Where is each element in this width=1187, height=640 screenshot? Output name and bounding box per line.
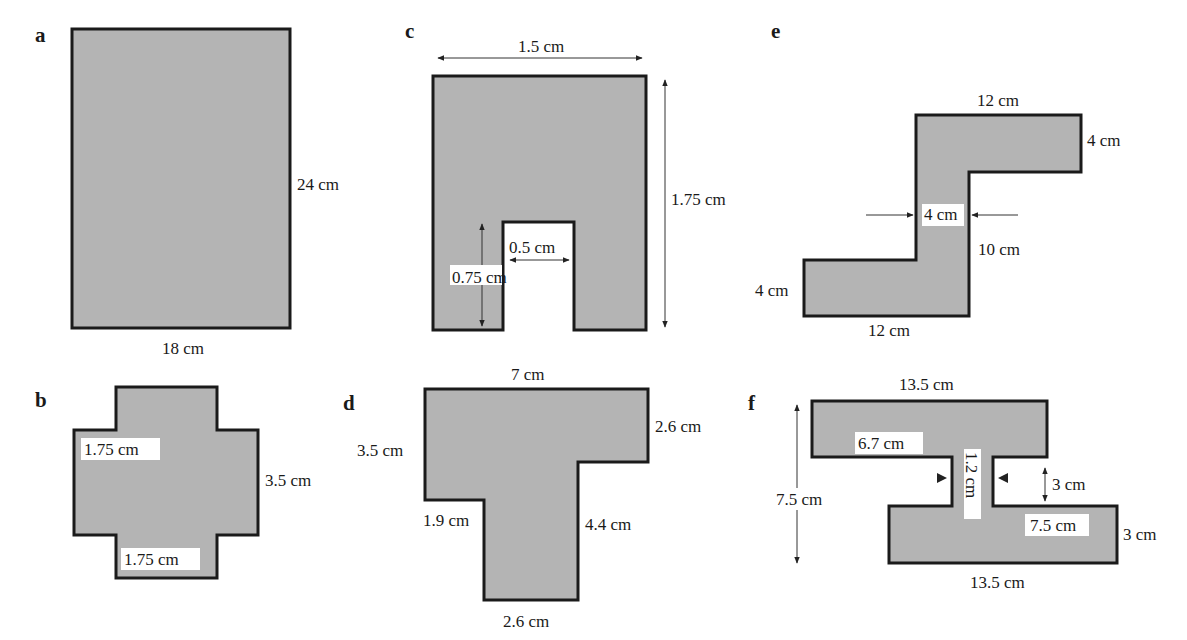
- label-d-right-lower: 4.4 cm: [585, 515, 631, 534]
- label-f-gap: 3 cm: [1052, 475, 1086, 494]
- label-b-arm-left: 1.75 cm: [84, 440, 139, 459]
- figure-letter-b: b: [35, 388, 47, 412]
- label-e-stem-width: 4 cm: [924, 205, 958, 224]
- label-f-total-height: 7.5 cm: [776, 490, 822, 509]
- label-c-height: 1.75 cm: [671, 190, 726, 209]
- label-c-width: 1.5 cm: [518, 37, 564, 56]
- label-e-top: 12 cm: [977, 91, 1019, 110]
- label-d-top: 7 cm: [511, 365, 545, 384]
- figure-letter-a: a: [35, 23, 46, 47]
- figure-c: c 1.5 cm 1.75 cm 0.5 cm 0.75 cm: [405, 19, 726, 330]
- label-f-top: 13.5 cm: [899, 375, 954, 394]
- figure-a: a 24 cm 18 cm: [35, 23, 339, 358]
- label-a-width: 18 cm: [162, 339, 204, 358]
- label-b-arm-bottom: 1.75 cm: [124, 550, 179, 569]
- label-e-stem-height: 10 cm: [978, 240, 1020, 259]
- label-c-notch-width: 0.5 cm: [509, 238, 555, 257]
- label-e-bottom: 12 cm: [868, 321, 910, 340]
- label-f-web-width: 1.2 cm: [962, 452, 981, 498]
- label-d-left: 3.5 cm: [357, 441, 403, 460]
- label-b-height: 3.5 cm: [265, 471, 311, 490]
- label-d-bottom: 2.6 cm: [503, 612, 549, 631]
- label-e-right: 4 cm: [1087, 131, 1121, 150]
- label-d-left-lower: 1.9 cm: [423, 511, 469, 530]
- t-shape: [425, 389, 648, 600]
- label-d-right-top: 2.6 cm: [655, 417, 701, 436]
- shapes-diagram: a 24 cm 18 cm b 1.75 cm 3.5 cm 1.75 cm c…: [0, 0, 1187, 640]
- figure-letter-e: e: [771, 19, 780, 43]
- figure-e: e 12 cm 4 cm 4 cm 10 cm 4 cm 12 cm: [755, 19, 1121, 340]
- arrowhead-icon: [998, 473, 1008, 483]
- figure-letter-d: d: [343, 391, 355, 415]
- figure-d: d 7 cm 2.6 cm 3.5 cm 1.9 cm 4.4 cm 2.6 c…: [343, 365, 701, 631]
- label-f-bottom-inner: 7.5 cm: [1030, 516, 1076, 535]
- figure-letter-f: f: [748, 391, 756, 415]
- label-f-bottom: 13.5 cm: [970, 573, 1025, 592]
- figure-b: b 1.75 cm 3.5 cm 1.75 cm: [35, 387, 311, 578]
- label-e-left: 4 cm: [755, 281, 789, 300]
- figure-letter-c: c: [405, 19, 414, 43]
- notched-rectangle-shape: [433, 76, 646, 330]
- label-f-right: 3 cm: [1123, 525, 1157, 544]
- arrowhead-icon: [937, 473, 947, 483]
- label-c-notch-height: 0.75 cm: [452, 268, 507, 287]
- label-f-top-inner: 6.7 cm: [858, 434, 904, 453]
- figure-f: f 13.5 cm 6.7 cm 7.5 cm 1.2 cm 3 cm 7.5 …: [748, 375, 1157, 592]
- label-a-height: 24 cm: [297, 175, 339, 194]
- rectangle-shape: [72, 29, 290, 328]
